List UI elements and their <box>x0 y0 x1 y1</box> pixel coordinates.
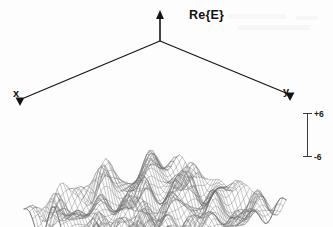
vertical-axis-label: Re{E} <box>189 9 224 22</box>
scale-label-bottom: -6 <box>314 153 322 162</box>
right-axis-y <box>160 41 295 101</box>
scale-label-top: +6 <box>314 110 324 119</box>
up-arrow-icon <box>156 10 164 19</box>
plot-canvas <box>0 0 333 227</box>
y-axis-label: y <box>283 86 289 97</box>
figure-3d-surface-plot: Re{E} x y +6 -6 <box>0 0 333 227</box>
left-axis-x <box>16 41 161 106</box>
x-axis-label: x <box>13 88 19 99</box>
scale-tick-top <box>303 113 312 114</box>
wireframe-mesh-surface <box>24 150 286 227</box>
vertical-axis <box>156 10 164 41</box>
amplitude-scale-bar: +6 -6 <box>300 110 333 160</box>
scale-tick-bottom <box>303 156 312 157</box>
scale-bar-line <box>307 113 308 157</box>
